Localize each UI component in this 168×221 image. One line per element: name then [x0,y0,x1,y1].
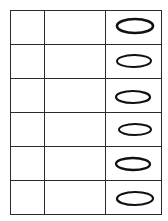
table-row[interactable] [11,181,162,215]
row-3-blank-cell-1[interactable] [11,79,45,113]
table-row[interactable] [11,79,162,113]
ellipse-icon [114,190,154,207]
answer-grid-table [10,10,162,215]
table-row[interactable] [11,45,162,79]
row-4-blank-cell-1[interactable] [11,113,45,147]
row-4-bubble[interactable] [107,113,162,146]
ellipse-icon [115,17,155,35]
row-2-mark-cell[interactable] [106,45,162,79]
row-1-blank-cell-2[interactable] [45,11,106,45]
ellipse-icon [114,52,152,68]
row-2-blank-cell-2[interactable] [45,45,106,79]
row-6-bubble[interactable] [107,182,162,215]
row-3-mark-cell[interactable] [106,79,162,113]
ellipse-icon [116,122,152,137]
row-2-blank-cell-1[interactable] [11,45,45,79]
row-4-blank-cell-2[interactable] [45,113,106,147]
table-row[interactable] [11,11,162,45]
row-5-blank-cell-2[interactable] [45,147,106,181]
row-6-blank-cell-1[interactable] [11,181,45,215]
document-sheet [0,0,168,221]
table-row[interactable] [11,113,162,147]
row-1-bubble[interactable] [107,9,162,42]
ellipse-icon [113,88,151,104]
row-4-mark-cell[interactable] [106,113,162,147]
row-3-blank-cell-2[interactable] [45,79,106,113]
row-5-bubble[interactable] [105,147,160,180]
row-5-blank-cell-1[interactable] [11,147,45,181]
ellipse-icon [113,155,151,171]
row-2-bubble[interactable] [106,44,161,78]
row-6-mark-cell[interactable] [106,181,162,215]
row-3-bubble[interactable] [105,80,160,113]
row-1-blank-cell-1[interactable] [11,11,45,45]
row-1-mark-cell[interactable] [106,11,162,45]
table-row[interactable] [11,147,162,181]
table-body [11,11,162,215]
row-6-blank-cell-2[interactable] [45,181,106,215]
row-5-mark-cell[interactable] [106,147,162,181]
